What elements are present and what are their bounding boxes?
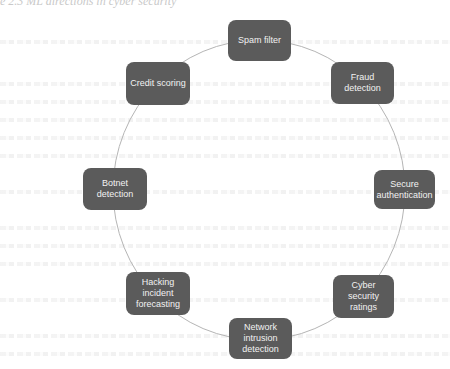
node-label: Credit scoring — [130, 78, 186, 89]
node-label: Network intrusion detection — [232, 322, 289, 355]
node-label: Fraud detection — [334, 72, 391, 94]
node-label: Botnet detection — [86, 178, 144, 200]
node-label: Secure authentication — [376, 179, 432, 201]
node-label: Spam filter — [238, 35, 281, 46]
node-label: Hacking incident forecasting — [129, 277, 187, 310]
node-fraud-detection: Fraud detection — [331, 62, 394, 104]
node-label: Cyber security ratings — [336, 280, 391, 313]
node-cyber-security-ratings: Cyber security ratings — [333, 275, 394, 318]
node-hacking-incident-forecasting: Hacking incident forecasting — [126, 272, 190, 315]
cycle-diagram: Spam filterFraud detectionSecure authent… — [0, 0, 450, 369]
node-credit-scoring: Credit scoring — [126, 62, 190, 105]
node-spam-filter: Spam filter — [228, 20, 291, 61]
node-secure-authentication: Secure authentication — [374, 170, 435, 209]
node-network-intrusion-detection: Network intrusion detection — [229, 318, 292, 359]
node-botnet-detection: Botnet detection — [83, 168, 147, 210]
